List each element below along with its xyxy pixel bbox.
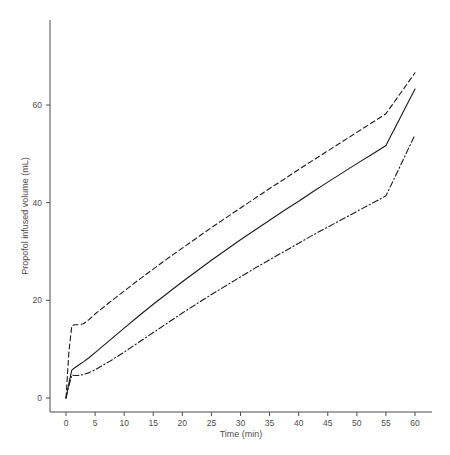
x-tick-label: 45: [323, 418, 333, 428]
data-series-group: [66, 73, 415, 398]
y-axis-title: Propofol infused volume (mL): [20, 157, 30, 275]
x-axis-title: Time (min): [220, 429, 263, 439]
plot-area: 051015202530354045505560 0204060 Time (m…: [0, 0, 450, 455]
series-lower-bound-dashdot: [66, 135, 415, 398]
x-tick-label: 20: [178, 418, 188, 428]
x-tick-label: 15: [149, 418, 159, 428]
x-axis-ticks: 051015202530354045505560: [64, 412, 420, 428]
y-tick-label: 0: [37, 393, 42, 403]
axes-group: [50, 20, 432, 412]
x-tick-label: 30: [236, 418, 246, 428]
x-tick-label: 60: [410, 418, 420, 428]
series-upper-bound-dashed: [66, 73, 415, 398]
x-tick-label: 35: [265, 418, 275, 428]
y-tick-label: 40: [33, 198, 43, 208]
y-axis-ticks: 0204060: [33, 100, 50, 403]
x-tick-label: 25: [207, 418, 217, 428]
x-tick-label: 40: [294, 418, 304, 428]
x-tick-label: 50: [352, 418, 362, 428]
series-mean-solid: [66, 89, 415, 398]
x-tick-label: 55: [381, 418, 391, 428]
y-tick-label: 20: [33, 295, 43, 305]
x-tick-label: 10: [119, 418, 129, 428]
y-tick-label: 60: [33, 100, 43, 110]
x-tick-label: 0: [64, 418, 69, 428]
propofol-volume-chart: 051015202530354045505560 0204060 Time (m…: [0, 0, 450, 455]
x-tick-label: 5: [93, 418, 98, 428]
